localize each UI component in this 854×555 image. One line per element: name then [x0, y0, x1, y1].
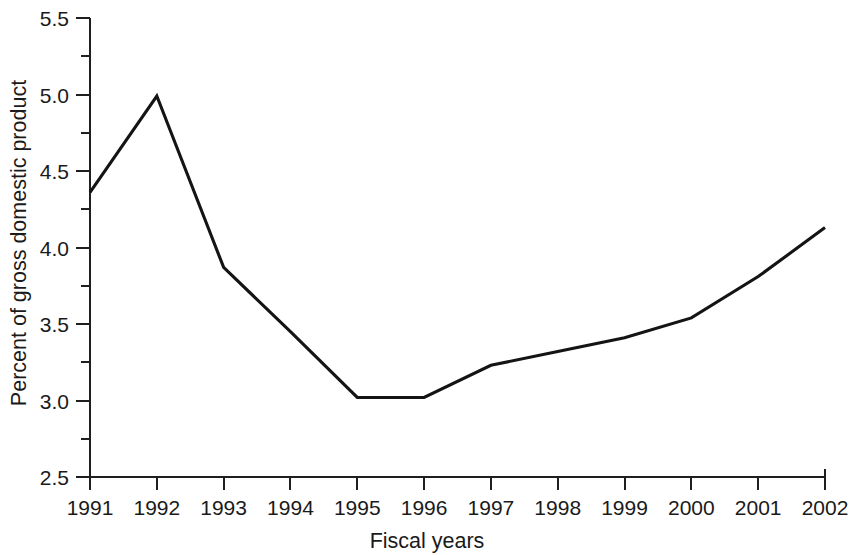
series-line-gdp-percent: [90, 96, 825, 397]
chart-axes: [76, 18, 825, 490]
x-axis-tick-label: 2000: [668, 497, 715, 518]
y-axis-tick-label: 4.5: [0, 161, 69, 182]
x-axis-tick-label: 1992: [133, 497, 180, 518]
y-axis-tick-label: 3.0: [0, 390, 69, 411]
x-axis-tick-label: 1991: [67, 497, 114, 518]
y-axis-tick-label: 3.5: [0, 314, 69, 335]
x-axis-tick-label: 1995: [334, 497, 381, 518]
y-axis-tick-label: 5.5: [0, 8, 69, 29]
x-axis-tick-label: 1997: [468, 497, 515, 518]
line-chart-plot: Percent of gross domestic product: [0, 0, 854, 555]
x-axis-tick-label: 1996: [401, 497, 448, 518]
x-axis-tick-label: 1998: [534, 497, 581, 518]
x-axis-tick-label: 2002: [802, 497, 849, 518]
x-axis-tick-label: 1994: [267, 497, 314, 518]
chart-container: Percent of gross domestic product 2.53.0…: [0, 0, 854, 555]
y-axis-tick-label: 2.5: [0, 467, 69, 488]
x-axis-tick-label: 1993: [200, 497, 247, 518]
x-axis-tick-label: 2001: [735, 497, 782, 518]
y-axis-major-ticks: [76, 18, 90, 477]
data-series-group: [90, 96, 825, 397]
y-axis-tick-label: 4.0: [0, 237, 69, 258]
x-axis-ticks: [90, 469, 825, 490]
x-axis-title-text: Fiscal years: [0, 529, 854, 554]
y-axis-tick-label: 5.0: [0, 84, 69, 105]
x-axis-tick-label: 1999: [601, 497, 648, 518]
